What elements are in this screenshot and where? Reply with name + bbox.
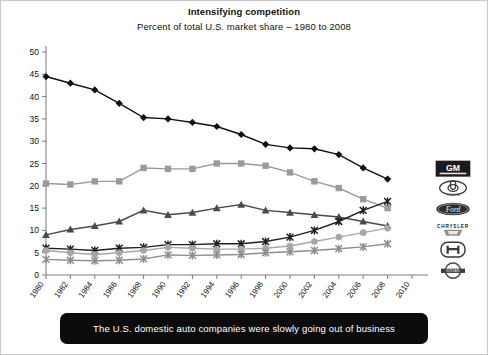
honda-logo-icon bbox=[433, 241, 473, 258]
marker-square bbox=[287, 169, 293, 175]
marker-diamond bbox=[311, 145, 318, 152]
x-tick-label: 1996 bbox=[223, 280, 241, 300]
marker-diamond bbox=[140, 114, 147, 121]
marker-square bbox=[360, 196, 366, 202]
marker-circle bbox=[165, 244, 172, 251]
marker-diamond bbox=[335, 151, 342, 158]
marker-diamond bbox=[91, 86, 98, 93]
line-chart-svg: 0510152025303540455019801982198419861988… bbox=[0, 0, 488, 355]
marker-diamond bbox=[262, 141, 269, 148]
marker-triangle bbox=[115, 218, 123, 225]
x-tick-label: 1994 bbox=[199, 280, 217, 300]
marker-diamond bbox=[384, 176, 391, 183]
gm-logo-icon: GM bbox=[433, 160, 473, 177]
marker-diamond bbox=[164, 115, 171, 122]
x-tick-label: 2002 bbox=[296, 280, 314, 300]
marker-square bbox=[140, 165, 146, 171]
y-tick-label: 40 bbox=[30, 92, 40, 102]
caption-text: The U.S. domestic auto companies were sl… bbox=[93, 323, 395, 334]
marker-cross bbox=[335, 217, 342, 225]
marker-square bbox=[311, 178, 317, 184]
x-tick-label: 2004 bbox=[321, 280, 339, 300]
legend-logos: GM TOYOTA Ford CHRYSLER NISSAN bbox=[425, 160, 481, 282]
x-tick-label: 2010 bbox=[394, 280, 412, 300]
y-tick-label: 20 bbox=[30, 181, 40, 191]
x-tick-label: 2008 bbox=[370, 280, 388, 300]
x-tick-label: 2006 bbox=[345, 280, 363, 300]
marker-circle bbox=[67, 249, 74, 256]
marker-square bbox=[336, 185, 342, 191]
ford-logo-icon: Ford bbox=[433, 201, 473, 218]
y-tick-label: 50 bbox=[30, 47, 40, 57]
marker-diamond bbox=[213, 123, 220, 130]
x-tick-label: 2000 bbox=[272, 280, 290, 300]
y-tick-label: 0 bbox=[34, 270, 39, 280]
marker-square bbox=[262, 163, 268, 169]
marker-cross bbox=[360, 206, 367, 214]
y-tick-label: 15 bbox=[30, 203, 40, 213]
plot-area: 0510152025303540455019801982198419861988… bbox=[0, 0, 488, 355]
marker-triangle bbox=[237, 201, 245, 208]
marker-diamond bbox=[360, 164, 367, 171]
svg-text:TOYOTA: TOYOTA bbox=[446, 194, 460, 198]
chrysler-logo-icon: CHRYSLER bbox=[433, 221, 473, 238]
marker-square bbox=[165, 166, 171, 172]
x-tick-label: 1992 bbox=[174, 280, 192, 300]
y-tick-label: 10 bbox=[30, 225, 40, 235]
marker-diamond bbox=[189, 119, 196, 126]
nissan-logo-icon: NISSAN bbox=[433, 262, 473, 279]
y-tick-label: 25 bbox=[30, 159, 40, 169]
svg-text:Ford: Ford bbox=[445, 204, 461, 213]
marker-square bbox=[238, 160, 244, 166]
marker-circle bbox=[384, 225, 391, 232]
x-tick-label: 1984 bbox=[77, 280, 95, 300]
marker-square bbox=[116, 178, 122, 184]
marker-circle bbox=[336, 234, 343, 241]
svg-text:NISSAN: NISSAN bbox=[446, 269, 459, 273]
marker-diamond bbox=[67, 80, 74, 87]
marker-cross bbox=[384, 197, 391, 205]
x-tick-label: 1986 bbox=[101, 280, 119, 300]
marker-square bbox=[189, 166, 195, 172]
marker-circle bbox=[189, 245, 196, 252]
x-tick-label: 1998 bbox=[248, 280, 266, 300]
caption-banner: The U.S. domestic auto companies were sl… bbox=[60, 313, 428, 344]
marker-square bbox=[384, 205, 390, 211]
marker-circle bbox=[43, 247, 50, 254]
marker-diamond bbox=[238, 131, 245, 138]
x-tick-label: 1980 bbox=[28, 280, 46, 300]
x-tick-label: 1990 bbox=[150, 280, 168, 300]
marker-square bbox=[92, 178, 98, 184]
marker-diamond bbox=[286, 144, 293, 151]
svg-text:GM: GM bbox=[446, 163, 460, 173]
marker-circle bbox=[140, 247, 147, 254]
y-tick-label: 30 bbox=[30, 136, 40, 146]
series-ford bbox=[43, 160, 391, 211]
marker-square bbox=[43, 180, 49, 186]
marker-square bbox=[67, 181, 73, 187]
marker-square bbox=[214, 160, 220, 166]
y-tick-label: 45 bbox=[30, 69, 40, 79]
x-tick-label: 1982 bbox=[52, 280, 70, 300]
toyota-logo-icon: TOYOTA bbox=[433, 180, 473, 197]
svg-text:CHRYSLER: CHRYSLER bbox=[437, 224, 469, 229]
marker-circle bbox=[116, 249, 123, 256]
y-tick-label: 35 bbox=[30, 114, 40, 124]
marker-diamond bbox=[116, 100, 123, 107]
marker-triangle bbox=[140, 206, 148, 213]
marker-circle bbox=[360, 229, 367, 236]
y-tick-label: 5 bbox=[34, 248, 39, 258]
marker-circle bbox=[311, 238, 318, 245]
x-tick-label: 1988 bbox=[126, 280, 144, 300]
